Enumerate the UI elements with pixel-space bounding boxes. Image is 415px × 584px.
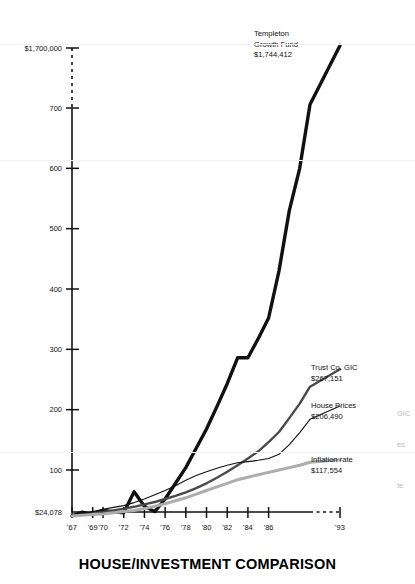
x-tick-label: '72	[119, 523, 129, 532]
annotation-line: Growth Fund	[254, 40, 298, 49]
series-line	[72, 45, 340, 516]
x-tick-label: '86	[264, 523, 274, 532]
house-annotation: House Prices$206,490	[311, 401, 356, 421]
series-annotations: TempletonGrowth Fund$1,744,412Trust Co. …	[254, 29, 358, 475]
annotation-line: $117,554	[311, 466, 342, 475]
annotation-line: $206,490	[311, 412, 343, 421]
y-tick-label: 700	[49, 104, 62, 113]
inflation-annotation: Inflation rate$117,554	[311, 455, 353, 475]
x-tick-label: '76	[160, 523, 170, 532]
house-investment-comparison-chart: 100200300400500600700$1,700,000$24,078 '…	[0, 0, 415, 556]
x-tick-label: '78	[181, 523, 191, 532]
y-tick-label: 400	[49, 285, 62, 294]
scan-artifact-houses: es	[397, 440, 413, 449]
x-tick-label: '93	[335, 523, 345, 532]
scan-artifact-gic: GIC	[397, 409, 413, 418]
series-line	[72, 369, 340, 516]
x-tick-label: '80	[202, 523, 212, 532]
x-tick-label: '70	[98, 523, 108, 532]
y-tick-label: 100	[49, 466, 62, 475]
templeton-annotation: TempletonGrowth Fund$1,744,412	[254, 29, 298, 59]
y-tick-label: 300	[49, 345, 62, 354]
y-tick-label: 600	[49, 164, 62, 173]
y-tick-label: 500	[49, 224, 62, 233]
x-tick-label: '84	[243, 523, 253, 532]
gic-annotation: Trust Co. GIC$267,151	[311, 363, 358, 383]
annotation-line: Trust Co. GIC	[311, 363, 358, 372]
series-lines	[72, 45, 340, 516]
annotation-line: House Prices	[311, 401, 356, 410]
x-tick-label: '67	[67, 523, 77, 532]
y-baseline-label: $24,078	[35, 508, 62, 517]
annotation-line: Templeton	[254, 29, 289, 38]
x-tick-label: '82	[222, 523, 232, 532]
scan-artifact-rate: te	[397, 481, 413, 490]
x-tick-label: '74	[140, 523, 150, 532]
annotation-line: $1,744,412	[254, 50, 292, 59]
series-line	[72, 406, 340, 516]
y-tick-label: $1,700,000	[24, 44, 62, 53]
x-tick-label: '69	[88, 523, 98, 532]
annotation-line: Inflation rate	[311, 455, 353, 464]
chart-title: HOUSE/INVESTMENT COMPARISON	[0, 556, 415, 572]
y-axis: 100200300400500600700$1,700,000$24,078	[24, 44, 79, 517]
annotation-line: $267,151	[311, 374, 343, 383]
chart-root: 100200300400500600700$1,700,000$24,078 '…	[0, 0, 415, 584]
y-tick-label: 200	[49, 405, 62, 414]
